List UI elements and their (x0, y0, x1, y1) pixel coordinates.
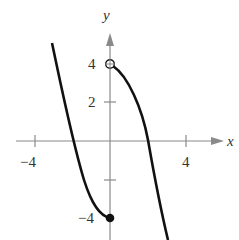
x-axis-arrow-icon (211, 137, 224, 145)
y-tick-label-2: 2 (88, 94, 96, 110)
y-tick-label-neg4: −4 (78, 210, 94, 226)
x-tick-label-4: 4 (182, 154, 190, 170)
x-axis-label: x (226, 133, 234, 149)
left-curve (52, 43, 110, 218)
function-graph: y x −4 4 4 2 −4 (0, 0, 239, 240)
y-axis-arrow-icon (106, 33, 114, 46)
closed-dot-endpoint (106, 214, 115, 223)
x-tick-label-neg4: −4 (20, 154, 36, 170)
y-tick-label-4: 4 (88, 56, 96, 72)
right-curve (113, 66, 168, 240)
y-axis-label: y (101, 7, 110, 23)
